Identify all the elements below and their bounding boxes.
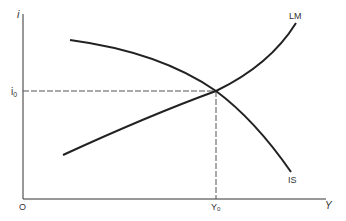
is-lm-diagram: i i0 LM IS O Y0 Y	[0, 0, 346, 221]
lm-label: LM	[289, 11, 302, 21]
is-curve	[70, 40, 291, 172]
lm-curve	[63, 23, 296, 155]
x-axis-label: Y	[325, 200, 333, 211]
origin-label: O	[19, 202, 26, 212]
y-axis-label: i	[17, 8, 20, 20]
is-label: IS	[288, 175, 297, 185]
y0-label: Y0	[211, 202, 221, 212]
i0-label: i0	[11, 86, 17, 98]
